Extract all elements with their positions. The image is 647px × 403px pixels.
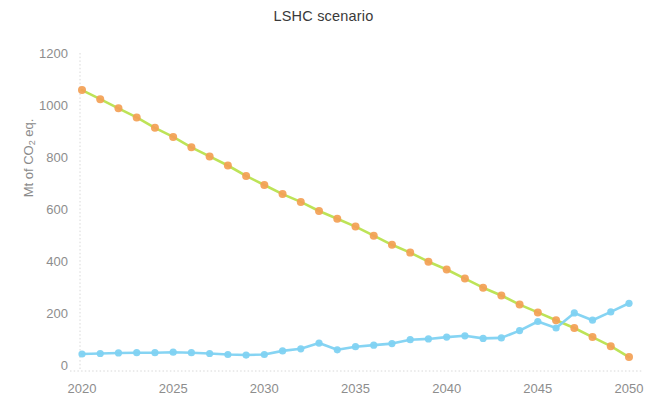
data-point-emissions-decline [151, 124, 159, 132]
data-point-removals-ramp [133, 349, 140, 356]
data-point-emissions-decline [352, 223, 360, 231]
data-point-emissions-decline [516, 301, 524, 309]
data-point-emissions-decline [114, 104, 122, 112]
data-point-emissions-decline [206, 152, 214, 160]
data-point-emissions-decline [406, 249, 414, 257]
data-point-removals-ramp [315, 339, 322, 346]
data-point-removals-ramp [534, 318, 541, 325]
data-point-emissions-decline [187, 143, 195, 151]
data-point-emissions-decline [461, 275, 469, 283]
data-point-removals-ramp [425, 335, 432, 342]
data-point-emissions-decline [297, 198, 305, 206]
data-point-emissions-decline [370, 232, 378, 240]
data-point-emissions-decline [133, 113, 141, 121]
data-point-removals-ramp [589, 317, 596, 324]
data-point-removals-ramp [279, 347, 286, 354]
data-point-emissions-decline [589, 333, 597, 341]
data-point-emissions-decline [260, 181, 268, 189]
data-point-removals-ramp [334, 346, 341, 353]
series-markers [78, 86, 633, 361]
data-point-removals-ramp [188, 349, 195, 356]
data-point-emissions-decline [534, 308, 542, 316]
data-point-emissions-decline [625, 353, 633, 361]
data-point-emissions-decline [169, 133, 177, 141]
data-point-removals-ramp [170, 349, 177, 356]
data-point-removals-ramp [151, 349, 158, 356]
data-point-removals-ramp [625, 300, 632, 307]
plot-area [0, 0, 647, 403]
data-point-removals-ramp [261, 351, 268, 358]
data-point-emissions-decline [570, 324, 578, 332]
data-point-emissions-decline [443, 266, 451, 274]
data-point-removals-ramp [115, 349, 122, 356]
data-point-emissions-decline [388, 241, 396, 249]
data-point-removals-ramp [480, 335, 487, 342]
data-point-emissions-decline [333, 215, 341, 223]
data-point-emissions-decline [424, 258, 432, 266]
data-point-removals-ramp [97, 350, 104, 357]
data-point-removals-ramp [224, 351, 231, 358]
data-point-removals-ramp [352, 343, 359, 350]
data-point-removals-ramp [443, 334, 450, 341]
data-point-emissions-decline [497, 292, 505, 300]
data-point-removals-ramp [607, 308, 614, 315]
data-point-emissions-decline [96, 95, 104, 103]
chart-canvas: LSHC scenario Mt of CO2 eq. 020040060080… [0, 0, 647, 403]
data-point-removals-ramp [552, 324, 559, 331]
data-point-emissions-decline [479, 284, 487, 292]
data-point-removals-ramp [407, 336, 414, 343]
data-point-removals-ramp [370, 342, 377, 349]
data-point-removals-ramp [461, 332, 468, 339]
data-point-removals-ramp [78, 350, 85, 357]
data-point-removals-ramp [571, 309, 578, 316]
data-point-removals-ramp [297, 345, 304, 352]
data-point-removals-ramp [243, 351, 250, 358]
data-point-emissions-decline [279, 190, 287, 198]
data-point-emissions-decline [315, 207, 323, 215]
data-point-emissions-decline [552, 316, 560, 324]
data-point-removals-ramp [388, 340, 395, 347]
data-point-emissions-decline [78, 86, 86, 94]
data-point-emissions-decline [224, 162, 232, 170]
data-point-emissions-decline [607, 342, 615, 350]
data-point-emissions-decline [242, 172, 250, 180]
data-point-removals-ramp [206, 350, 213, 357]
data-point-removals-ramp [516, 327, 523, 334]
data-point-removals-ramp [498, 334, 505, 341]
